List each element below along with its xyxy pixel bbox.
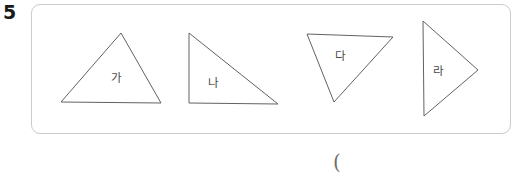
triangle-ga-label: 가 [111, 72, 122, 85]
triangle-na-label: 나 [208, 77, 219, 90]
question-number: 5 [3, 1, 16, 23]
triangle-ra-label: 라 [433, 65, 444, 78]
triangle-da-label: 다 [335, 50, 346, 63]
answer-parenthesis: ( [333, 150, 341, 174]
